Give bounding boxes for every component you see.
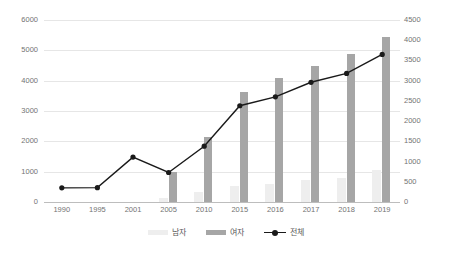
x-axis-tick-label: 2017	[291, 205, 331, 214]
right-axis-tick-label: 3500	[404, 56, 444, 64]
right-axis-tick-label: 3000	[404, 77, 444, 85]
chart-container: 0100020003000400050006000 05001000150020…	[0, 0, 452, 256]
total-data-point	[273, 94, 278, 99]
total-data-point	[380, 52, 385, 57]
legend-item-total[interactable]: 전체	[264, 228, 304, 237]
total-data-point	[344, 71, 349, 76]
right-axis-tick-label: 4000	[404, 36, 444, 44]
total-data-point	[237, 103, 242, 108]
total-line-path	[62, 54, 382, 187]
x-axis-tick-label: 2010	[184, 205, 224, 214]
legend-swatch-female-icon	[206, 230, 226, 235]
legend-swatch-male-icon	[148, 230, 168, 235]
left-axis-tick-label: 5000	[0, 46, 38, 54]
total-data-point	[308, 80, 313, 85]
x-axis-tick-label: 2019	[362, 205, 402, 214]
left-axis-tick-label: 6000	[0, 16, 38, 24]
line-series-total	[44, 20, 400, 202]
right-axis-tick-label: 4500	[404, 16, 444, 24]
total-data-point	[130, 155, 135, 160]
left-axis-tick-label: 0	[0, 198, 38, 206]
left-axis-tick-label: 3000	[0, 107, 38, 115]
total-data-point	[95, 185, 100, 190]
legend-label-male: 남자	[172, 228, 186, 237]
left-axis-tick-label: 2000	[0, 137, 38, 145]
legend-label-female: 여자	[230, 228, 244, 237]
left-axis-tick-label: 4000	[0, 77, 38, 85]
x-axis-tick-label: 2015	[220, 205, 260, 214]
legend-line-marker-icon	[264, 229, 286, 237]
legend-label-total: 전체	[290, 228, 304, 237]
chart-legend: 남자 여자 전체	[0, 228, 452, 237]
x-axis-line	[44, 202, 400, 203]
right-axis-tick-label: 1000	[404, 158, 444, 166]
x-axis-tick-label: 2016	[255, 205, 295, 214]
legend-item-female[interactable]: 여자	[206, 228, 244, 237]
total-data-point	[166, 170, 171, 175]
total-data-point	[202, 144, 207, 149]
right-axis-tick-label: 500	[404, 178, 444, 186]
x-axis-tick-label: 2001	[113, 205, 153, 214]
right-axis-tick-label: 0	[404, 198, 444, 206]
x-axis-tick-label: 2018	[327, 205, 367, 214]
right-axis-tick-label: 1500	[404, 137, 444, 145]
right-axis-tick-label: 2000	[404, 117, 444, 125]
right-axis-tick-label: 2500	[404, 97, 444, 105]
x-axis-tick-label: 2005	[149, 205, 189, 214]
x-axis-tick-label: 1990	[42, 205, 82, 214]
legend-item-male[interactable]: 남자	[148, 228, 186, 237]
total-data-point	[59, 185, 64, 190]
left-axis-tick-label: 1000	[0, 168, 38, 176]
x-axis-tick-label: 1995	[77, 205, 117, 214]
